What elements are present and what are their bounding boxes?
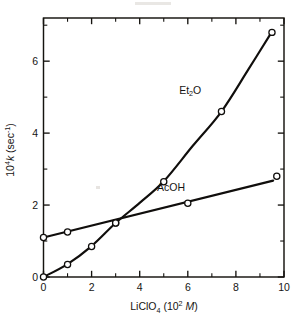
kinetics-plot: 0246810 0246 Et2OAcOH LiClO4 (102 M) 104…	[0, 0, 303, 319]
data-point-AcOH-0	[40, 234, 46, 240]
data-point-AcOH-3	[185, 200, 191, 206]
x-tick-label-3: 6	[185, 281, 191, 293]
data-point-Et2O-5	[218, 108, 224, 114]
scan-artifact	[135, 2, 171, 5]
chart-background	[0, 0, 303, 319]
data-point-AcOH-1	[64, 229, 70, 235]
data-point-Et2O-2	[89, 243, 95, 249]
data-point-Et2O-6	[269, 29, 275, 35]
x-tick-label-2: 4	[137, 281, 143, 293]
x-tick-label-4: 8	[233, 281, 239, 293]
data-point-AcOH-4	[274, 173, 280, 179]
y-tick-label-3: 6	[32, 55, 38, 67]
y-tick-label-1: 2	[32, 199, 38, 211]
scan-speck	[96, 186, 100, 189]
data-point-Et2O-1	[64, 261, 70, 267]
x-tick-label-1: 2	[89, 281, 95, 293]
y-tick-label-2: 4	[32, 127, 38, 139]
chart-figure: 0246810 0246 Et2OAcOH LiClO4 (102 M) 104…	[0, 0, 303, 319]
series-label-AcOH: AcOH	[157, 181, 185, 193]
data-point-AcOH-2	[113, 220, 119, 226]
data-point-Et2O-0	[40, 274, 46, 280]
y-tick-label-0: 0	[32, 271, 38, 283]
x-tick-label-5: 10	[278, 281, 290, 293]
x-tick-label-0: 0	[41, 281, 47, 293]
